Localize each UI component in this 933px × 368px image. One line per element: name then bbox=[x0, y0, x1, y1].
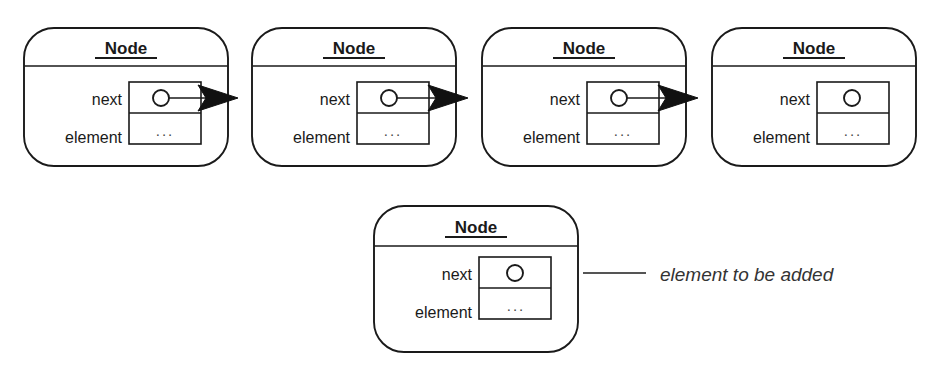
element-value-ellipsis: ... bbox=[614, 122, 633, 139]
field-label-next: next bbox=[442, 266, 473, 283]
node-title-label: Node bbox=[105, 39, 148, 58]
node-title-label: Node bbox=[333, 39, 376, 58]
annotation-label: element to be added bbox=[660, 264, 835, 285]
linked-list-diagram: Node next element ... Node next element … bbox=[0, 0, 933, 368]
element-value-ellipsis: ... bbox=[156, 122, 175, 139]
field-label-next: next bbox=[780, 91, 811, 108]
node-box-new: Node next element ... bbox=[374, 206, 578, 352]
next-pointer-circle bbox=[844, 90, 860, 106]
node-box-1: Node next element ... bbox=[24, 28, 228, 166]
field-label-element: element bbox=[753, 129, 810, 146]
node-title-label: Node bbox=[455, 218, 498, 237]
node-box-4: Node next element ... bbox=[712, 28, 916, 166]
field-label-element: element bbox=[523, 129, 580, 146]
field-label-element: element bbox=[65, 129, 122, 146]
node-box-3: Node next element ... bbox=[482, 28, 686, 166]
element-value-ellipsis: ... bbox=[507, 297, 526, 314]
field-label-next: next bbox=[320, 91, 351, 108]
node-box-2: Node next element ... bbox=[252, 28, 456, 166]
field-label-element: element bbox=[293, 129, 350, 146]
field-label-next: next bbox=[92, 91, 123, 108]
next-pointer-circle bbox=[507, 265, 523, 281]
element-value-ellipsis: ... bbox=[384, 122, 403, 139]
node-title-label: Node bbox=[793, 39, 836, 58]
field-label-next: next bbox=[550, 91, 581, 108]
field-label-element: element bbox=[415, 304, 472, 321]
next-pointer-circle bbox=[153, 90, 169, 106]
next-pointer-circle bbox=[381, 90, 397, 106]
next-pointer-circle bbox=[611, 90, 627, 106]
node-title-label: Node bbox=[563, 39, 606, 58]
element-value-ellipsis: ... bbox=[844, 122, 863, 139]
diagram-canvas: Node next element ... Node next element … bbox=[0, 0, 933, 368]
